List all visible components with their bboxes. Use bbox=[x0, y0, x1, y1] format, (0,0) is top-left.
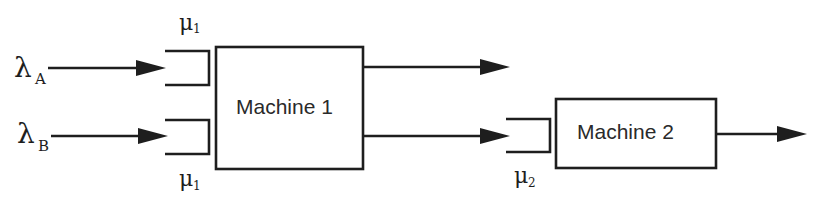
arrow-head-icon bbox=[777, 126, 807, 142]
arrow-head-icon bbox=[480, 128, 510, 144]
arrival-b: λ B bbox=[17, 117, 168, 155]
machine-2-label: Machine 2 bbox=[577, 120, 674, 143]
service-rate-machine-2-symbol: μ bbox=[514, 163, 528, 188]
arrival-b-symbol: λ bbox=[17, 117, 35, 150]
arrival-a: λ A bbox=[14, 51, 166, 88]
queue-a-buffer bbox=[165, 51, 209, 85]
machine-1: Machine 1 bbox=[216, 47, 363, 169]
machine-1-label: Machine 1 bbox=[236, 95, 333, 118]
arrival-a-symbol: λ bbox=[14, 51, 32, 84]
service-rate-machine-2: μ 2 bbox=[514, 163, 536, 190]
queue-machine-2-buffer bbox=[506, 119, 550, 152]
arrow-head-icon bbox=[480, 59, 510, 75]
arrival-a-subscript: A bbox=[34, 70, 46, 88]
service-rate-bottom-symbol: μ bbox=[179, 166, 193, 191]
service-rate-top-subscript: 1 bbox=[193, 22, 201, 36]
arrow-head-icon bbox=[136, 60, 166, 76]
service-rate-bottom-subscript: 1 bbox=[193, 179, 201, 193]
queue-b-buffer bbox=[165, 120, 209, 154]
service-rate-machine-2-subscript: 2 bbox=[528, 176, 536, 190]
service-rate-bottom: μ 1 bbox=[179, 166, 201, 193]
service-rate-top: μ 1 bbox=[179, 10, 201, 36]
machine-2: Machine 2 bbox=[556, 99, 716, 168]
service-rate-top-symbol: μ bbox=[179, 10, 193, 35]
arrival-b-subscript: B bbox=[38, 137, 49, 155]
queueing-network-diagram: λ A λ B μ 1 μ 1 Machine 1 μ 2 Machine bbox=[0, 0, 828, 202]
arrow-head-icon bbox=[138, 128, 168, 144]
